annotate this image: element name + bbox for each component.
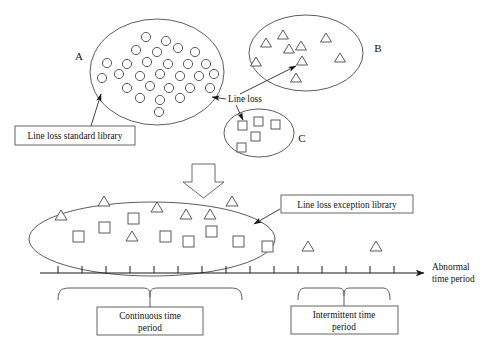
axis-ticks [58,266,394,273]
axis-label-line1: Abnormal [432,262,470,272]
exception-library-callout: Line loss exception library [254,195,413,224]
down-arrow-icon [183,164,224,198]
cluster-b-triangles [251,30,346,82]
standard-library-callout: Line loss standard library [15,94,135,145]
timeline-axis: Abnormal time period [40,262,475,284]
bracket-intermittent-label-line1: Intermittent time [313,310,376,320]
bracket-continuous-label-line1: Continuous time [119,311,181,321]
cluster-a-label: A [75,50,83,62]
cluster-c-squares [237,117,280,152]
line-loss-leader-to-b [240,66,296,94]
exception-library-leader [254,209,280,224]
line-loss-leader-to-c [236,105,243,120]
diagram-root: A B C Line loss stan [0,0,484,348]
cluster-c-label: C [298,132,305,144]
cluster-a-circles [97,32,218,116]
bracket-intermittent-label-line2: period [332,322,356,332]
cluster-b-label: B [374,42,381,54]
line-loss-callout: Line loss [212,66,296,120]
standard-library-leader [91,94,101,126]
merged-squares [73,213,273,252]
line-loss-label: Line loss [228,94,262,104]
exception-library-label: Line loss exception library [297,200,397,210]
outlier-triangles [302,241,382,251]
diagram-canvas: A B C Line loss stan [0,0,484,348]
bracket-intermittent: Intermittent time period [291,288,398,334]
line-loss-leader-to-a [212,97,226,99]
cluster-c-group: C [224,109,306,157]
cluster-a-group: A [75,19,224,125]
axis-label-line2: time period [432,274,475,284]
bracket-continuous-label-line2: period [138,323,162,333]
cluster-b-ellipse [249,15,363,91]
bracket-continuous: Continuous time period [58,288,242,335]
standard-library-label: Line loss standard library [28,131,123,141]
